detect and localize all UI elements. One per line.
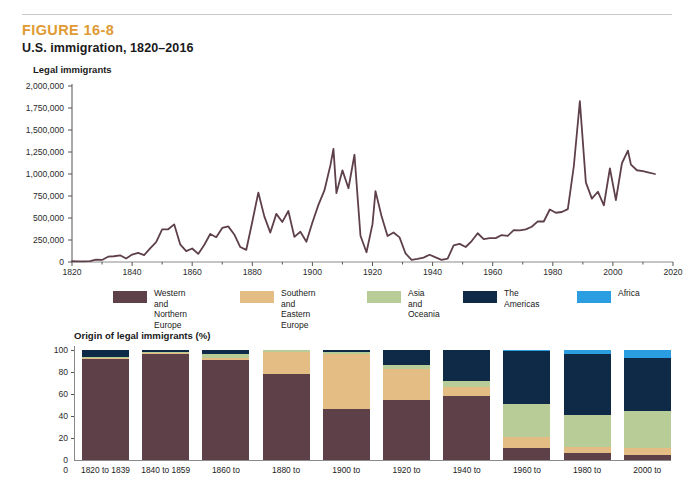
figure-title: U.S. immigration, 1820–2016 [22,41,194,55]
table-row [624,350,671,460]
line-chart-x-tick-label: 1980 [533,267,573,277]
bar-segment [503,351,550,404]
legend-label: Africa [618,288,640,299]
line-chart-y-tick-label: 1,750,000 [0,103,64,113]
bar-segment [82,359,129,460]
bar-segment [323,409,370,460]
bar-chart-y-tick-label: 0 [42,455,68,465]
bar-segment [263,350,310,352]
bar-chart-y-tick-mark [71,350,74,351]
table-row [82,350,129,460]
line-chart-x-tick-label: 1860 [172,267,212,277]
line-chart-y-tick-label: 0 [0,257,64,267]
bar-chart-axis-title: Origin of legal immigrants (%) [74,330,210,341]
bar-segment [82,357,129,358]
bar-segment [202,360,249,460]
table-row [443,350,490,460]
bar-segment [142,353,189,354]
table-row [503,350,550,460]
table-row [263,350,310,460]
bar-segment [624,411,671,448]
bar-segment [323,354,370,409]
bar-segment [383,350,430,365]
bar-segment [383,365,430,368]
bar-segment [323,352,370,354]
bar-chart-x-tick-label: 2000 to [610,465,685,475]
header-divider [22,14,672,15]
bar-segment [503,448,550,460]
line-chart-y-axis-title: Legal immigrants [33,64,112,75]
table-row [383,350,430,460]
legend-label: Southern and Eastern Europe [281,288,316,330]
line-chart-y-tick-label: 750,000 [0,191,64,201]
bar-segment [142,350,189,352]
legend-swatch [463,291,497,303]
bar-segment [503,404,550,437]
legend-swatch [240,291,274,303]
line-chart-x-tick-label: 1920 [353,267,393,277]
bar-segment [624,455,671,461]
table-row [202,350,249,460]
bar-segment [263,352,310,374]
line-chart-y-tick-label: 1,500,000 [0,125,64,135]
bar-segment [383,369,430,400]
line-chart-x-tick-label: 1840 [112,267,152,277]
bar-chart-y-tick-label: 20 [42,433,68,443]
bar-chart-origin-label: 0 [42,465,68,475]
bar-segment [263,374,310,460]
bar-chart-y-tick-mark [71,438,74,439]
bar-segment [323,350,370,352]
legend-swatch [367,291,401,303]
bar-segment [82,350,129,357]
table-row [564,350,611,460]
bar-segment [564,415,611,447]
line-chart-x-tick-label: 1960 [473,267,513,277]
line-chart-svg [0,76,689,284]
bar-segment [564,453,611,460]
figure-page: FIGURE 16-8 U.S. immigration, 1820–2016 … [0,0,689,481]
legend: Western and Northern EuropeSouthern and … [0,290,689,316]
legend-label: Western and Northern Europe [154,288,187,330]
bar-segment [624,350,671,358]
table-row [323,350,370,460]
line-chart: 0250,000500,000750,0001,000,0001,250,000… [0,76,689,284]
bar-segment [202,354,249,357]
line-chart-x-tick-label: 1900 [292,267,332,277]
line-chart-x-tick-label: 2000 [593,267,633,277]
bar-chart-y-tick-label: 80 [42,367,68,377]
immigration-line-series [72,101,655,261]
bar-chart-x-axis [74,460,671,461]
legend-label: Asia and Oceania [408,288,440,320]
bar-chart-y-tick-mark [71,416,74,417]
bar-chart-y-axis [74,346,75,460]
bar-segment [142,354,189,460]
stacked-bar-chart: 0204060801001820 to 18391840 to 18591860… [0,344,689,481]
bar-segment [443,350,490,381]
bar-segment [564,354,611,415]
line-chart-x-tick-label: 2020 [653,267,689,277]
legend-swatch [577,291,611,303]
bar-chart-y-tick-label: 40 [42,411,68,421]
figure-label: FIGURE 16-8 [22,22,114,38]
bar-segment [624,448,671,455]
bar-chart-y-tick-mark [71,372,74,373]
line-chart-y-tick-label: 500,000 [0,213,64,223]
line-chart-y-tick-label: 1,250,000 [0,147,64,157]
bar-segment [624,358,671,411]
bar-segment [202,350,249,354]
table-row [142,350,189,460]
legend-label: The Americas [504,288,539,309]
bar-segment [443,396,490,460]
bar-segment [503,437,550,448]
bar-segment [142,352,189,353]
line-chart-y-tick-label: 250,000 [0,235,64,245]
bar-chart-y-tick-mark [71,394,74,395]
bar-segment [443,387,490,396]
bar-segment [443,381,490,388]
line-chart-y-tick-label: 2,000,000 [0,81,64,91]
legend-swatch [113,291,147,303]
bar-chart-y-tick-label: 60 [42,389,68,399]
bar-segment [503,350,550,351]
bar-segment [202,358,249,360]
bar-segment [383,400,430,461]
